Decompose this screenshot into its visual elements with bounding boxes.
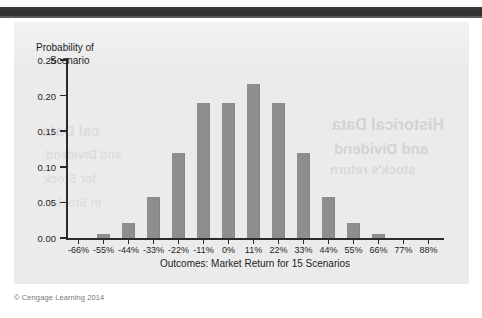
scanned-page: Part 2 Valuation Historical Data and Div… (0, 0, 482, 318)
x-axis-tick-label: 0% (222, 245, 235, 255)
x-axis-tick (228, 239, 230, 244)
x-axis-tick (378, 239, 380, 244)
x-axis-tick (203, 239, 205, 244)
x-axis-tick (178, 239, 180, 244)
x-axis-tick-label: -44% (118, 245, 139, 255)
x-axis-tick (78, 239, 80, 244)
x-axis-tick (278, 239, 280, 244)
x-axis-tick (153, 239, 155, 244)
header-rule-bar (0, 7, 482, 18)
y-axis-tick-label: 0.15 (38, 126, 57, 137)
y-axis-tick: 0.15 (60, 130, 66, 132)
y-axis-tick-label: 0.20 (38, 90, 57, 101)
y-axis-tick-label: 0.25 (38, 55, 57, 66)
bar (297, 153, 311, 238)
x-axis-tick-label: 77% (394, 245, 412, 255)
x-axis-tick (253, 239, 255, 244)
figure-panel: Historical Data and Dividend stock's ret… (14, 22, 469, 284)
y-axis-tick: 0.25 (60, 59, 66, 61)
y-axis-title-line1: Probability of (36, 42, 94, 53)
y-axis-tick-label: 0.10 (38, 161, 57, 172)
x-axis-tick-label: -55% (93, 245, 114, 255)
bar (272, 103, 286, 238)
bar (172, 153, 186, 238)
x-axis-tick (353, 239, 355, 244)
x-axis-tick (428, 239, 430, 244)
bar (322, 197, 336, 238)
bar (347, 223, 361, 238)
x-axis-tick-label: -22% (168, 245, 189, 255)
x-axis-title: Outcomes: Market Return for 15 Scenarios (66, 258, 444, 269)
y-axis-tick: 0.10 (60, 166, 66, 168)
x-axis-tick (403, 239, 405, 244)
x-axis-tick-label: 11% (245, 245, 262, 255)
x-axis-tick (103, 239, 105, 244)
x-axis-tick-label: 33% (294, 245, 312, 255)
x-axis-tick-label: 55% (344, 245, 362, 255)
x-axis-tick-label: 22% (269, 245, 287, 255)
bar (197, 103, 211, 238)
x-axis-tick-label: -33% (143, 245, 164, 255)
y-axis-tick: 0.00 (60, 237, 66, 239)
x-axis-tick-label: -11% (193, 245, 213, 255)
x-axis-tick (303, 239, 305, 244)
bar (147, 197, 161, 238)
x-axis-tick-label: -66% (68, 245, 89, 255)
x-axis-line (66, 238, 444, 240)
bar (372, 234, 386, 238)
bar (97, 234, 111, 238)
page-header-strip: Part 2 Valuation (0, 0, 482, 6)
y-axis-line (66, 58, 68, 240)
y-axis-tick-label: 0.00 (38, 233, 57, 244)
y-axis-tick: 0.05 (60, 202, 66, 204)
x-axis-tick-label: 44% (319, 245, 337, 255)
bar (247, 84, 261, 238)
x-axis-tick-label: 88% (419, 245, 437, 255)
y-axis-tick-label: 0.05 (38, 197, 57, 208)
x-axis-tick (328, 239, 330, 244)
bar (122, 223, 136, 238)
y-axis-tick: 0.20 (60, 95, 66, 97)
x-axis-tick-label: 66% (369, 245, 387, 255)
copyright-credit: © Cengage Learning 2014 (14, 293, 104, 302)
bar (222, 103, 236, 238)
x-axis-tick (128, 239, 130, 244)
